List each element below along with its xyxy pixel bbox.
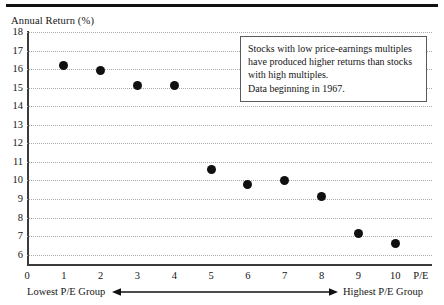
gridline bbox=[27, 180, 432, 181]
top-rule-divider bbox=[6, 4, 438, 7]
y-tick-label: 9 bbox=[1, 194, 23, 205]
y-tick-label: 6 bbox=[1, 250, 23, 261]
gridline bbox=[27, 125, 432, 126]
caption-lowest-pe: Lowest P/E Group bbox=[27, 285, 105, 298]
data-point bbox=[243, 180, 252, 189]
x-tick-label: 1 bbox=[61, 270, 66, 281]
annotation-textbox: Stocks with low price-earnings multiples… bbox=[240, 36, 427, 102]
y-tick-label: 17 bbox=[1, 46, 23, 57]
data-point bbox=[280, 176, 289, 185]
gridline bbox=[27, 218, 432, 219]
x-tick-label: 0 bbox=[24, 270, 29, 281]
y-tick-label: 16 bbox=[1, 64, 23, 75]
chart-figure: Annual Return (%) 1817161514131211109876… bbox=[0, 0, 444, 305]
annotation-line-4: Data beginning in 1967. bbox=[248, 82, 419, 95]
y-tick-label: 11 bbox=[1, 157, 23, 168]
x-tick-label: 8 bbox=[319, 270, 324, 281]
annotation-line-1: Stocks with low price-earnings multiples bbox=[248, 42, 419, 55]
x-tick-label: 5 bbox=[208, 270, 213, 281]
gridline bbox=[27, 162, 432, 163]
x-tick-label: 9 bbox=[356, 270, 361, 281]
data-point bbox=[391, 239, 400, 248]
annotation-line-3: with high multiples. bbox=[248, 68, 419, 81]
double-arrow-icon bbox=[112, 286, 338, 298]
y-tick-label: 12 bbox=[1, 138, 23, 149]
gridline bbox=[27, 106, 432, 107]
x-tick-label: 6 bbox=[245, 270, 250, 281]
x-tick-label: 10 bbox=[390, 270, 401, 281]
gridline bbox=[27, 143, 432, 144]
data-point bbox=[354, 229, 363, 238]
y-axis-title: Annual Return (%) bbox=[11, 15, 94, 26]
x-tick-label: 7 bbox=[282, 270, 287, 281]
y-tick-label: 18 bbox=[1, 27, 23, 38]
x-axis-line bbox=[27, 264, 432, 266]
y-tick-label: 7 bbox=[1, 231, 23, 242]
gridline bbox=[27, 255, 432, 256]
data-point bbox=[133, 81, 142, 90]
x-tick-label: 2 bbox=[98, 270, 103, 281]
gridline bbox=[27, 32, 432, 33]
data-point bbox=[317, 192, 326, 201]
gridline bbox=[27, 236, 432, 237]
y-axis-tick-labels: 1817161514131211109876 bbox=[0, 32, 23, 264]
y-tick-label: 8 bbox=[1, 213, 23, 224]
y-tick-label: 14 bbox=[1, 101, 23, 112]
x-tick-label: 4 bbox=[172, 270, 177, 281]
x-tick-label: 3 bbox=[135, 270, 140, 281]
data-point bbox=[207, 165, 216, 174]
y-tick-label: 13 bbox=[1, 120, 23, 131]
data-point bbox=[170, 81, 179, 90]
data-point bbox=[96, 66, 105, 75]
x-axis-end-label: P/E bbox=[413, 270, 428, 281]
axis-caption-row: Lowest P/E Group Highest P/E Group bbox=[0, 285, 444, 301]
caption-highest-pe: Highest P/E Group bbox=[343, 285, 423, 298]
annotation-line-2: have produced higher returns than stocks bbox=[248, 55, 419, 68]
x-axis-tick-labels: 012345678910P/E bbox=[0, 270, 444, 284]
y-tick-label: 15 bbox=[1, 83, 23, 94]
gridline bbox=[27, 199, 432, 200]
y-tick-label: 10 bbox=[1, 175, 23, 186]
